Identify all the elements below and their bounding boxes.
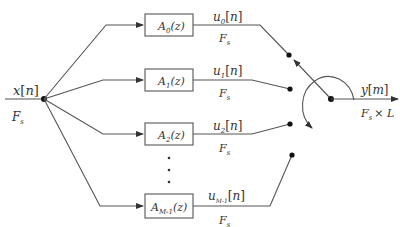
branch-m1-input-wire bbox=[44, 99, 143, 206]
svg-text:uM-1[n]: uM-1[n] bbox=[208, 189, 245, 204]
contact-m1 bbox=[289, 152, 294, 157]
svg-text:Fs: Fs bbox=[218, 214, 231, 227]
branch-0-output-wire bbox=[193, 25, 289, 55]
contact-1 bbox=[287, 86, 292, 91]
output-labels: y[m] Fs× L bbox=[360, 83, 394, 122]
commutator-contacts bbox=[286, 52, 294, 157]
input-label: x[n] Fs bbox=[11, 83, 39, 126]
branch-0-labels: u0[n] Fs bbox=[213, 10, 242, 47]
ellipsis-dots bbox=[168, 157, 171, 184]
branch-m1-labels: uM-1[n] Fs bbox=[208, 189, 245, 227]
filter-box-am1: AM-1(z) bbox=[145, 194, 193, 218]
svg-text:A2(z): A2(z) bbox=[157, 129, 185, 144]
filter-box-a1: A1(z) bbox=[145, 69, 193, 91]
svg-text:Fs× L: Fs× L bbox=[360, 107, 394, 122]
svg-text:A0(z): A0(z) bbox=[157, 20, 185, 35]
branch-2-labels: u2[n] Fs bbox=[213, 119, 242, 157]
branch-1-output-wire bbox=[193, 80, 290, 89]
rotation-arrow-icon bbox=[302, 77, 354, 128]
svg-text:u2[n]: u2[n] bbox=[213, 119, 242, 135]
contact-0 bbox=[286, 52, 291, 57]
svg-text:Fs: Fs bbox=[218, 142, 231, 157]
filter-box-a2: A2(z) bbox=[145, 123, 193, 145]
polyphase-commutator-diagram: x[n] Fs A0(z) A1(z) A2(z) AM-1(z) u0[n] … bbox=[0, 0, 400, 227]
svg-text:Fs: Fs bbox=[218, 32, 231, 47]
branch-1-input-wire bbox=[44, 80, 143, 99]
svg-text:x[n]: x[n] bbox=[13, 83, 39, 98]
svg-text:A1(z): A1(z) bbox=[157, 75, 185, 90]
commutator-arm bbox=[294, 60, 331, 99]
branch-2-input-wire bbox=[44, 99, 143, 134]
svg-text:u1[n]: u1[n] bbox=[213, 64, 242, 80]
svg-text:u0[n]: u0[n] bbox=[213, 10, 242, 26]
svg-text:Fs: Fs bbox=[11, 110, 24, 126]
branch-0-input-wire bbox=[44, 25, 143, 99]
contact-2 bbox=[287, 121, 292, 126]
svg-text:Fs: Fs bbox=[218, 87, 231, 102]
svg-text:y[m]: y[m] bbox=[360, 83, 389, 97]
filter-box-a0: A0(z) bbox=[145, 14, 193, 36]
branch-1-labels: u1[n] Fs bbox=[213, 64, 242, 102]
